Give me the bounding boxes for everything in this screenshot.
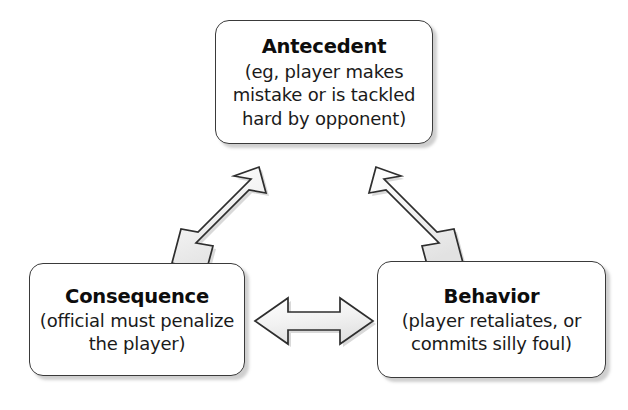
node-antecedent-body-line-2: mistake or is tackled [233, 83, 416, 107]
abc-model-diagram: Antecedent (eg, player makes mistake or … [0, 0, 628, 410]
node-consequence[interactable]: Consequence (official must penalize the … [29, 263, 245, 376]
node-consequence-body-line-2: the player) [40, 332, 234, 356]
arrow-consequence-antecedent [172, 167, 269, 275]
node-consequence-title: Consequence [65, 284, 209, 309]
node-consequence-body: (official must penalize the player) [40, 309, 234, 356]
node-behavior[interactable]: Behavior (player retaliates, or commits … [377, 261, 606, 378]
node-antecedent-body-line-1: (eg, player makes [233, 60, 416, 84]
node-antecedent-body: (eg, player makes mistake or is tackled … [233, 60, 416, 131]
node-behavior-title: Behavior [444, 284, 540, 309]
node-antecedent[interactable]: Antecedent (eg, player makes mistake or … [215, 20, 433, 144]
arrow-consequence-behavior [255, 298, 376, 347]
node-behavior-body-line-2: commits silly foul) [402, 332, 582, 356]
node-consequence-body-line-1: (official must penalize [40, 309, 234, 333]
node-antecedent-body-line-3: hard by opponent) [233, 107, 416, 131]
node-antecedent-title: Antecedent [262, 34, 387, 59]
node-behavior-body-line-1: (player retaliates, or [402, 309, 582, 333]
node-behavior-body: (player retaliates, or commits silly fou… [402, 309, 582, 356]
arrow-antecedent-behavior [369, 167, 466, 275]
